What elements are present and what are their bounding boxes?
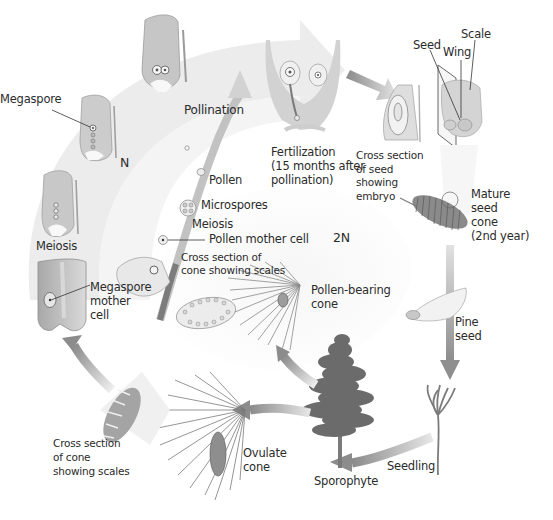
arrow-down-head — [440, 360, 460, 380]
label-pollination: Pollination — [184, 103, 244, 117]
label-pollen: Pollen — [209, 173, 242, 187]
label-pollen-mother-cell: Pollen mother cell — [209, 232, 309, 246]
pine-life-cycle-diagram: Megaspore Pollination N Pollen Microspor… — [0, 0, 553, 520]
label-scale: Scale — [461, 27, 491, 41]
label-ovulate-cone: Ovulate cone — [243, 446, 287, 474]
label-haploid-n: N — [120, 156, 129, 170]
ovulate-cone — [210, 432, 226, 476]
megaspore-mother-cell-tissue — [38, 259, 90, 331]
label-pollen-bearing-cone: Pollen-bearing cone — [311, 283, 391, 311]
label-meiosis-center: Meiosis — [192, 217, 233, 231]
arrow-to-ovulate-cone — [250, 408, 310, 413]
label-cross-section-seed: Cross section of seed showing embryo — [356, 149, 423, 203]
label-microspores: Microspores — [201, 198, 268, 212]
arrow-to-megaspore-mother-cell — [74, 345, 112, 390]
label-meiosis-left: Meiosis — [36, 239, 77, 253]
label-seed: Seed — [413, 38, 441, 52]
label-mature-seed-cone: Mature seed cone (2nd year) — [471, 187, 529, 243]
ovulate-cone-branch — [158, 372, 245, 500]
label-megaspore-mother-cell: Megaspore mother cell — [90, 280, 151, 322]
label-pine-seed: Pine seed — [455, 315, 482, 343]
ovule-megaspore — [52, 95, 116, 161]
label-wing: Wing — [443, 45, 471, 59]
label-megaspore: Megaspore — [0, 92, 61, 106]
label-cross-section-cone-bottom: Cross section of cone showing scales — [53, 436, 129, 478]
label-diploid-2n: 2N — [333, 231, 350, 245]
label-fertilization: Fertilization (15 months after pollinati… — [271, 145, 365, 187]
arrow-to-seed — [346, 70, 398, 100]
label-sporophyte: Sporophyte — [314, 474, 378, 488]
label-cross-section-cone-top: Cross section of cone showing scales — [181, 251, 285, 277]
label-seedling: Seedling — [387, 459, 435, 473]
